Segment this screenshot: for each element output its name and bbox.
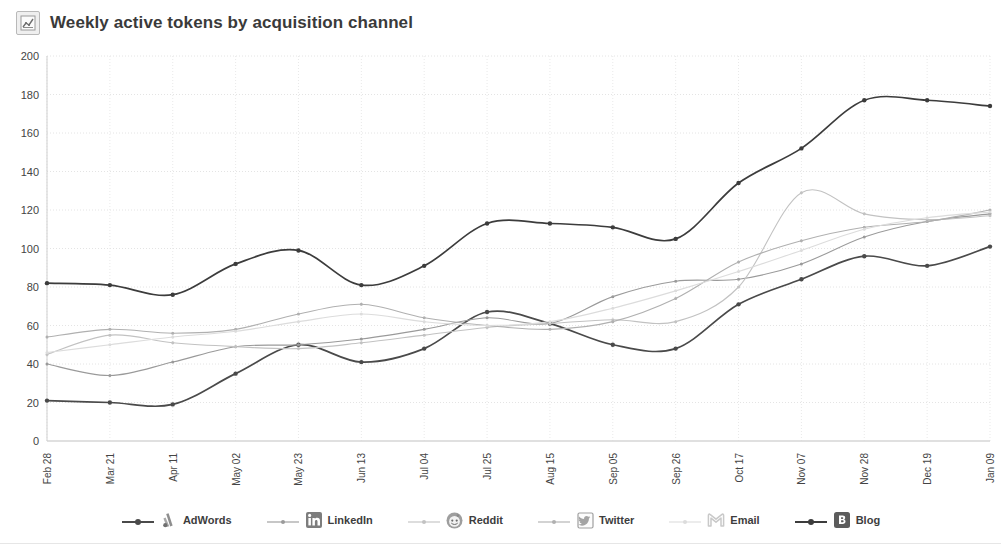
- page-title: Weekly active tokens by acquisition chan…: [50, 13, 413, 33]
- y-axis-tick: 180: [21, 89, 39, 101]
- data-point: [171, 361, 174, 364]
- data-point: [233, 262, 237, 266]
- data-point: [234, 345, 237, 348]
- data-point: [297, 343, 300, 346]
- legend-item-blog[interactable]: Blog: [794, 511, 880, 529]
- legend-item-reddit[interactable]: Reddit: [407, 511, 503, 529]
- data-point: [360, 303, 363, 306]
- series-line: [47, 247, 990, 407]
- x-axis-tick: Jul 25: [482, 453, 493, 480]
- series-blog: [45, 96, 992, 296]
- legend-line-swatch: [668, 514, 702, 526]
- x-axis-tick: Jun 13: [356, 453, 367, 483]
- x-axis-tick: Jan 09: [985, 453, 996, 483]
- x-axis-tick: May 02: [231, 453, 242, 486]
- data-point: [171, 402, 175, 406]
- x-axis-tick: Oct 17: [734, 453, 745, 483]
- data-point: [737, 270, 740, 273]
- data-point: [925, 98, 929, 102]
- x-axis-tick: Dec 19: [922, 453, 933, 485]
- data-point: [108, 334, 111, 337]
- x-axis-tick: Feb 28: [42, 453, 53, 485]
- legend-item-linkedin[interactable]: LinkedIn: [266, 511, 373, 529]
- data-point: [296, 248, 300, 252]
- data-point: [611, 343, 615, 347]
- data-point: [108, 374, 111, 377]
- y-axis-tick: 60: [27, 320, 39, 332]
- x-axis-tick: Nov 28: [859, 453, 870, 485]
- data-point: [799, 277, 803, 281]
- data-point: [485, 221, 489, 225]
- data-point: [988, 104, 992, 108]
- data-point: [485, 310, 489, 314]
- legend-line-swatch: [794, 514, 828, 526]
- x-axis-tick: Apr 11: [168, 453, 179, 482]
- data-point: [800, 191, 803, 194]
- legend-line-swatch: [121, 514, 155, 526]
- chart-header: Weekly active tokens by acquisition chan…: [0, 0, 1001, 44]
- data-point: [423, 316, 426, 319]
- data-point: [611, 225, 615, 229]
- chart-legend: AdWordsLinkedInRedditTwitterEmailBlog: [0, 500, 1001, 540]
- line-chart: 020406080100120140160180200Feb 28Mar 21A…: [0, 44, 1001, 514]
- series-twitter: [46, 209, 992, 339]
- legend-item-email[interactable]: Email: [668, 511, 759, 529]
- data-point: [234, 330, 237, 333]
- data-point: [863, 228, 866, 231]
- x-axis-tick: Sep 05: [608, 453, 619, 485]
- data-point: [674, 280, 677, 283]
- data-point: [800, 262, 803, 265]
- data-point: [45, 398, 49, 402]
- data-point: [486, 324, 489, 327]
- data-point: [46, 363, 49, 366]
- x-axis-tick: Jul 04: [419, 453, 430, 480]
- data-point: [108, 343, 111, 346]
- legend-label: Blog: [856, 514, 880, 526]
- data-point: [297, 312, 300, 315]
- x-axis-tick: Aug 15: [545, 453, 556, 485]
- data-point: [863, 212, 866, 215]
- x-axis-tick: Nov 07: [796, 453, 807, 485]
- data-point: [674, 297, 677, 300]
- blog-icon: [833, 511, 851, 529]
- data-point: [548, 320, 551, 323]
- y-axis-tick: 100: [21, 243, 39, 255]
- legend-line-swatch: [266, 514, 300, 526]
- series-reddit: [46, 190, 992, 356]
- x-axis-tick: Mar 21: [105, 453, 116, 485]
- data-point: [989, 210, 992, 213]
- y-axis-tick: 200: [21, 50, 39, 62]
- series-line: [47, 212, 990, 353]
- data-point: [989, 214, 992, 217]
- legend-label: Twitter: [599, 514, 634, 526]
- data-point: [360, 341, 363, 344]
- data-point: [360, 337, 363, 340]
- data-point: [422, 346, 426, 350]
- data-point: [611, 295, 614, 298]
- data-point: [297, 320, 300, 323]
- data-point: [611, 320, 614, 323]
- data-point: [862, 254, 866, 258]
- data-point: [673, 237, 677, 241]
- legend-line-swatch: [537, 514, 571, 526]
- y-axis-tick: 20: [27, 397, 39, 409]
- y-axis-tick: 0: [33, 435, 39, 447]
- data-point: [422, 264, 426, 268]
- data-point: [736, 181, 740, 185]
- data-point: [171, 341, 174, 344]
- data-point: [988, 244, 992, 248]
- y-axis-tick: 160: [21, 127, 39, 139]
- data-point: [862, 98, 866, 102]
- data-point: [926, 220, 929, 223]
- data-point: [548, 328, 551, 331]
- data-point: [548, 221, 552, 225]
- data-point: [800, 239, 803, 242]
- series-email: [46, 210, 992, 354]
- data-point: [423, 334, 426, 337]
- legend-label: LinkedIn: [328, 514, 373, 526]
- data-point: [108, 400, 112, 404]
- data-point: [46, 336, 49, 339]
- legend-item-adwords[interactable]: AdWords: [121, 511, 232, 529]
- legend-item-twitter[interactable]: Twitter: [537, 511, 634, 529]
- chart-plot-area: 020406080100120140160180200Feb 28Mar 21A…: [0, 44, 1001, 514]
